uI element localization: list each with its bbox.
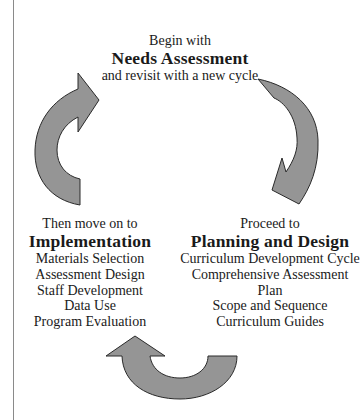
needs-title: Needs Assessment [95, 49, 265, 69]
planning-item: Curriculum Development Cycle [180, 251, 360, 267]
implementation-item: Materials Selection [15, 251, 165, 267]
planning-item: Curriculum Guides [180, 314, 360, 330]
implementation-item: Assessment Design [15, 267, 165, 283]
planning-item: Scope and Sequence [180, 298, 360, 314]
implementation-item: Data Use [15, 298, 165, 314]
implementation-title: Implementation [15, 232, 165, 252]
implementation-stage: Then move on to Implementation Materials… [15, 216, 165, 330]
left-curved-arrow-icon [35, 73, 99, 205]
implementation-lead-text: Then move on to [15, 216, 165, 232]
bottom-curved-arrow-icon [106, 336, 237, 399]
implementation-item: Program Evaluation [15, 314, 165, 330]
needs-trail-text: and revisit with a new cycle [95, 68, 265, 84]
needs-assessment-stage: Begin with Needs Assessment and revisit … [95, 33, 265, 84]
needs-lead-text: Begin with [95, 33, 265, 49]
implementation-item: Staff Development [15, 283, 165, 299]
planning-lead-text: Proceed to [180, 216, 360, 232]
planning-title: Planning and Design [180, 232, 360, 252]
planning-item: Comprehensive Assessment Plan [180, 267, 360, 298]
planning-design-stage: Proceed to Planning and Design Curriculu… [180, 216, 360, 330]
right-curved-arrow-icon [258, 79, 318, 204]
